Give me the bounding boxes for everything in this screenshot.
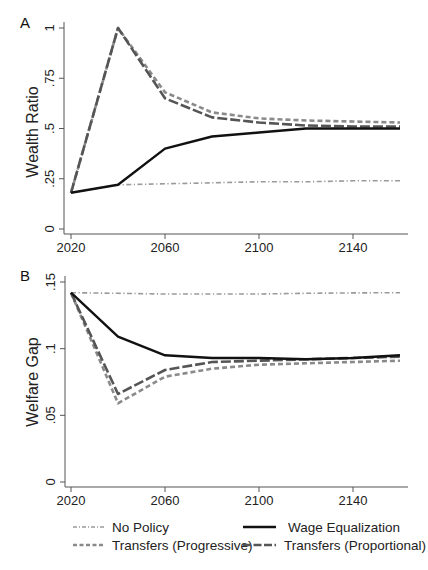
legend-label-transfers-proportional: Transfers (Proportional) bbox=[284, 538, 426, 553]
legend: No Policy Wage Equalization Transfers (P… bbox=[73, 520, 426, 553]
series-line-transfers-proportional bbox=[71, 293, 400, 394]
y-tick-label: .25 bbox=[42, 170, 57, 188]
y-tick-label: 1 bbox=[42, 24, 57, 31]
x-tick-label: 2020 bbox=[57, 493, 86, 508]
panel-b-axes bbox=[65, 276, 408, 487]
x-tick-label: 2060 bbox=[151, 240, 180, 255]
series-line-wage-equalization bbox=[71, 293, 400, 360]
panel-a-x-ticks: 2020206021002140 bbox=[57, 234, 368, 255]
series-line-transfers-progressive bbox=[71, 293, 400, 404]
y-tick-label: .5 bbox=[42, 123, 57, 134]
legend-item-transfers-proportional: Transfers (Proportional) bbox=[243, 538, 426, 553]
legend-item-transfers-progressive: Transfers (Progressive) bbox=[73, 538, 253, 553]
panel-b-y-axis-title: Welfare Gap bbox=[24, 337, 41, 427]
series-line-transfers-progressive bbox=[71, 28, 400, 193]
series-line-no-policy bbox=[71, 293, 400, 294]
panel-a-y-axis-title: Wealth Ratio bbox=[24, 86, 41, 177]
x-tick-label: 2020 bbox=[57, 240, 86, 255]
panel-a-wealth-ratio: A Wealth Ratio 0.25.5.751 20202060210021… bbox=[20, 14, 408, 255]
x-tick-label: 2060 bbox=[151, 493, 180, 508]
figure: A Wealth Ratio 0.25.5.751 20202060210021… bbox=[0, 0, 428, 570]
x-tick-label: 2100 bbox=[245, 240, 274, 255]
legend-item-no-policy: No Policy bbox=[73, 520, 169, 535]
legend-label-transfers-progressive: Transfers (Progressive) bbox=[112, 538, 253, 553]
x-tick-label: 2140 bbox=[339, 493, 368, 508]
y-tick-label: .75 bbox=[42, 69, 57, 87]
y-tick-label: 0 bbox=[42, 225, 57, 232]
panel-a-series bbox=[71, 28, 400, 193]
panel-b-series bbox=[71, 293, 400, 404]
panel-b-label: B bbox=[20, 267, 30, 284]
legend-item-wage-equalization: Wage Equalization bbox=[243, 520, 400, 535]
panel-b-y-ticks: 0.05.1.15 bbox=[43, 273, 65, 486]
series-line-wage-equalization bbox=[71, 129, 400, 193]
chart-canvas: A Wealth Ratio 0.25.5.751 20202060210021… bbox=[0, 0, 428, 570]
y-tick-label: .15 bbox=[43, 273, 58, 291]
panel-a-y-ticks: 0.25.5.751 bbox=[42, 24, 64, 232]
series-line-transfers-proportional bbox=[71, 28, 400, 193]
legend-label-no-policy: No Policy bbox=[112, 520, 169, 535]
panel-b-welfare-gap: B Welfare Gap 0.05.1.15 2020206021002140 bbox=[20, 267, 408, 508]
legend-label-wage-equalization: Wage Equalization bbox=[288, 520, 400, 535]
y-tick-label: .05 bbox=[43, 406, 58, 424]
x-tick-label: 2140 bbox=[339, 240, 368, 255]
y-tick-label: 0 bbox=[43, 478, 58, 485]
x-tick-label: 2100 bbox=[245, 493, 274, 508]
panel-b-x-ticks: 2020206021002140 bbox=[57, 487, 368, 508]
panel-a-label: A bbox=[20, 14, 30, 31]
y-tick-label: .1 bbox=[43, 343, 58, 354]
